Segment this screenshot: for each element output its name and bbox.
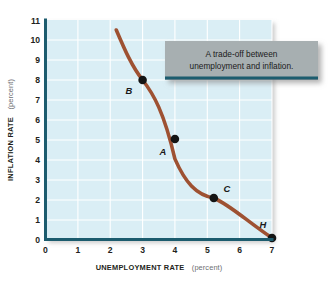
data-point-label-C: C [224,183,231,194]
data-point-C [210,194,219,203]
data-point-B [138,76,147,85]
y-tick-7: 7 [35,95,40,105]
data-point-label-A: A [159,146,167,157]
x-tick-4: 4 [173,245,178,255]
y-axis-tick-labels: 0 1 2 3 4 5 6 7 8 9 10 11 [30,16,40,245]
y-tick-5: 5 [35,135,40,145]
x-tick-6: 6 [237,245,242,255]
y-axis-title: INFLATION RATE (percent) [0,79,16,181]
y-tick-11: 11 [31,16,40,26]
data-point-label-H: H [260,219,267,230]
data-point-label-B: B [126,85,133,96]
svg-text:INFLATION RATE (percen: INFLATION RATE (percent) [0,79,16,181]
x-tick-1: 1 [76,245,81,255]
x-axis-title-unit: (percent) [192,263,222,272]
x-axis-tick-labels: 0 1 2 3 4 5 6 7 [43,245,275,255]
y-tick-1: 1 [35,215,40,225]
x-tick-0: 0 [43,245,48,255]
x-tick-3: 3 [140,245,145,255]
svg-text:UNEMPLOYMENT RATE (per: UNEMPLOYMENT RATE (percent) [96,256,223,273]
y-tick-10: 10 [30,35,40,45]
x-axis-title-main: UNEMPLOYMENT RATE [96,263,185,272]
callout-line-1: A trade-off between [206,49,278,59]
callout-line-2: unemployment and inflation. [190,61,294,71]
callout-bottom-border [165,77,318,80]
chart-canvas: B A C H 0 1 2 3 4 5 6 7 8 9 10 11 0 [0,0,333,286]
y-tick-2: 2 [35,195,40,205]
x-tick-5: 5 [205,245,210,255]
y-tick-9: 9 [35,55,40,65]
y-tick-6: 6 [35,115,40,125]
y-tick-8: 8 [35,75,40,85]
x-tick-2: 2 [108,245,113,255]
data-point-A [171,135,180,144]
y-tick-3: 3 [35,175,40,185]
y-tick-4: 4 [35,155,40,165]
x-tick-7: 7 [270,245,275,255]
y-tick-0: 0 [35,235,40,245]
y-axis-title-unit: (percent) [6,79,15,109]
callout-background [165,41,318,79]
x-axis-title: UNEMPLOYMENT RATE (percent) [96,256,223,273]
phillips-curve-figure: B A C H 0 1 2 3 4 5 6 7 8 9 10 11 0 [0,0,333,286]
y-axis-title-main: INFLATION RATE [6,117,15,181]
